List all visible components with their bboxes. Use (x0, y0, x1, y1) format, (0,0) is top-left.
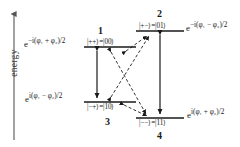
level-number-1: 1 (98, 26, 103, 36)
phase-exponent-4: i(φ₁ + φ₂)/2 (191, 108, 224, 116)
ket-label-4: |−−⟩=|11⟩ (139, 120, 166, 127)
phase-exponent-3: i(φ₁ − φ₂)/2 (29, 92, 62, 100)
phase-factor-1: e−i(φ₁ + φ₂)/2 (24, 40, 65, 49)
phase-factor-4: ei(φ₁ + φ₂)/2 (187, 111, 224, 120)
ket-label-3: |−+⟩=|10⟩ (87, 104, 114, 111)
ket-label-1: |++⟩=|00⟩ (87, 39, 114, 46)
level-number-4: 4 (157, 131, 162, 141)
level-number-3: 3 (105, 117, 110, 127)
ket-label-2: |+−⟩=|01⟩ (139, 23, 166, 30)
dashed-transitions (111, 36, 149, 116)
level-number-2: 2 (157, 9, 162, 19)
transition-3-2 (111, 36, 149, 97)
energy-axis-label: energy (9, 35, 19, 91)
phase-factor-3: ei(φ₁ − φ₂)/2 (25, 95, 62, 104)
energy-level-diagram-figure: energy 1 2 3 4 |++⟩=|00⟩ |+−⟩=|01⟩ |−+⟩=… (0, 0, 240, 147)
transition-3-4 (124, 105, 147, 116)
phase-factor-2: e−i(φ₁ − φ₂)/2 (186, 24, 227, 33)
phase-exponent-2: −i(φ₁ − φ₂)/2 (190, 21, 227, 29)
phase-exponent-1: −i(φ₁ + φ₂)/2 (28, 37, 65, 45)
transition-1-4 (111, 52, 146, 114)
